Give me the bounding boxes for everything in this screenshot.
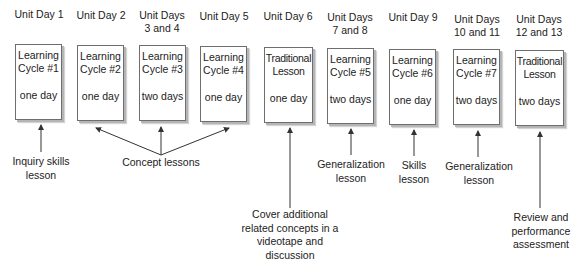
- box-title: Traditional Lesson: [265, 52, 312, 78]
- box-duration: one day: [16, 89, 61, 102]
- arrow-diagonal-icon: [96, 128, 161, 155]
- box-title: Learning Cycle #7: [454, 54, 499, 80]
- header-line: Unit Days: [315, 11, 385, 24]
- box-title: Learning Cycle #2: [78, 50, 123, 76]
- header-unit-day-6: Unit Day 6: [253, 10, 323, 23]
- box-title-line: Learning: [328, 53, 373, 66]
- lesson-box-learning-cycle-7: Learning Cycle #7 two days: [453, 49, 500, 125]
- arrow-diagonal-icon: [161, 128, 229, 155]
- box-title-line: Learning: [201, 51, 246, 64]
- box-title: Learning Cycle #6: [390, 54, 435, 80]
- box-duration: two days: [516, 95, 563, 108]
- annotation-generalization-1: Generalization lesson: [306, 158, 396, 185]
- box-title-line: Learning: [78, 50, 123, 63]
- header-line: Unit Day 9: [378, 11, 448, 24]
- annotation-line: videotape and: [235, 235, 345, 249]
- lesson-box-learning-cycle-4: Learning Cycle #4 one day: [200, 46, 247, 122]
- box-title-line: Cycle #1: [16, 62, 61, 75]
- annotation-concept-lessons: Concept lessons: [111, 156, 211, 170]
- annotation-line: related concepts in a: [235, 222, 345, 236]
- annotation-line: Generalization: [434, 160, 524, 174]
- box-duration: two days: [328, 93, 373, 106]
- box-title: Learning Cycle #3: [140, 50, 185, 76]
- lesson-box-learning-cycle-5: Learning Cycle #5 two days: [327, 48, 374, 124]
- box-title-line: Cycle #7: [454, 67, 499, 80]
- header-line: 10 and 11: [442, 26, 512, 39]
- box-title-line: Cycle #2: [78, 63, 123, 76]
- box-duration: one day: [78, 90, 123, 103]
- header-unit-days-12-13: Unit Days 12 and 13: [504, 13, 574, 39]
- header-line: Unit Days: [127, 9, 197, 22]
- header-line: Unit Day 6: [253, 10, 323, 23]
- header-line: Unit Day 1: [4, 8, 74, 21]
- lesson-box-learning-cycle-3: Learning Cycle #3 two days: [139, 45, 186, 121]
- box-title-line: Traditional: [516, 55, 563, 68]
- header-line: 12 and 13: [504, 26, 574, 39]
- annotation-line: Generalization: [306, 158, 396, 172]
- header-unit-day-2: Unit Day 2: [66, 9, 136, 22]
- box-title: Learning Cycle #1: [16, 49, 61, 75]
- box-title-line: Learning: [390, 54, 435, 67]
- annotation-review-assessment: Review and performance assessment: [502, 211, 580, 252]
- box-title-line: Cycle #4: [201, 64, 246, 77]
- box-title: Learning Cycle #5: [328, 53, 373, 79]
- annotation-line: Inquiry skills: [0, 155, 86, 169]
- box-duration: one day: [201, 91, 246, 104]
- header-unit-days-10-11: Unit Days 10 and 11: [442, 13, 512, 39]
- box-title-line: Cycle #5: [328, 66, 373, 79]
- annotation-line: Concept lessons: [111, 156, 211, 170]
- header-line: Unit Day 2: [66, 9, 136, 22]
- box-duration: one day: [265, 92, 312, 105]
- lesson-box-traditional-lesson-1: Traditional Lesson one day: [264, 47, 313, 123]
- lesson-box-traditional-lesson-2: Traditional Lesson two days: [515, 50, 564, 126]
- lesson-box-learning-cycle-1: Learning Cycle #1 one day: [15, 44, 62, 120]
- header-line: 3 and 4: [127, 22, 197, 35]
- box-title-line: Cycle #6: [390, 67, 435, 80]
- annotation-line: lesson: [434, 174, 524, 188]
- box-duration: two days: [140, 90, 185, 103]
- header-unit-day-5: Unit Day 5: [189, 10, 259, 23]
- header-line: 7 and 8: [315, 24, 385, 37]
- box-duration: two days: [454, 94, 499, 107]
- header-unit-day-1: Unit Day 1: [4, 8, 74, 21]
- unit-schedule-diagram: Unit Day 1 Unit Day 2 Unit Days 3 and 4 …: [0, 0, 580, 265]
- annotation-line: Cover additional: [235, 208, 345, 222]
- box-title-line: Lesson: [516, 68, 563, 81]
- lesson-box-learning-cycle-2: Learning Cycle #2 one day: [77, 45, 124, 121]
- annotation-generalization-2: Generalization lesson: [434, 160, 524, 187]
- box-title-line: Traditional: [265, 52, 312, 65]
- header-unit-day-9: Unit Day 9: [378, 11, 448, 24]
- annotation-line: performance: [502, 225, 580, 239]
- box-title: Learning Cycle #4: [201, 51, 246, 77]
- header-unit-days-3-4: Unit Days 3 and 4: [127, 9, 197, 35]
- box-title-line: Lesson: [265, 65, 312, 78]
- annotation-inquiry-skills: Inquiry skills lesson: [0, 155, 86, 182]
- box-title-line: Learning: [16, 49, 61, 62]
- annotation-line: assessment: [502, 238, 580, 252]
- header-line: Unit Day 5: [189, 10, 259, 23]
- annotation-videotape-discussion: Cover additional related concepts in a v…: [235, 208, 345, 262]
- header-unit-days-7-8: Unit Days 7 and 8: [315, 11, 385, 37]
- box-title-line: Cycle #3: [140, 63, 185, 76]
- header-line: Unit Days: [504, 13, 574, 26]
- box-duration: one day: [390, 94, 435, 107]
- annotation-line: lesson: [0, 169, 86, 183]
- header-line: Unit Days: [442, 13, 512, 26]
- annotation-line: lesson: [306, 172, 396, 186]
- annotation-line: Review and: [502, 211, 580, 225]
- box-title-line: Learning: [454, 54, 499, 67]
- box-title-line: Learning: [140, 50, 185, 63]
- box-title: Traditional Lesson: [516, 55, 563, 81]
- annotation-line: discussion: [235, 249, 345, 263]
- lesson-box-learning-cycle-6: Learning Cycle #6 one day: [389, 49, 436, 125]
